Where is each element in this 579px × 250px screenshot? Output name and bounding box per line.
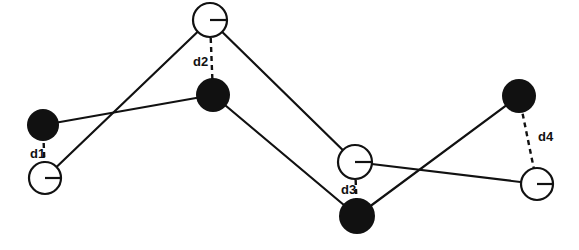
filled-nodes-group <box>27 78 536 234</box>
distance-label-d3: d3 <box>341 182 356 197</box>
edge-o2-o3 <box>210 20 355 162</box>
open-node-stubs-group <box>45 20 553 184</box>
solid-edges-group <box>43 20 537 216</box>
node-link-diagram: d1 d2 d3 d4 <box>0 0 579 250</box>
edge-o3-o4 <box>355 162 537 184</box>
edge-f2-f3 <box>213 95 357 216</box>
diagram-canvas: d1 d2 d3 d4 <box>0 0 579 250</box>
distance-label-d2: d2 <box>193 54 208 69</box>
distance-label-d4: d4 <box>538 129 554 144</box>
filled-node-f1 <box>27 109 59 141</box>
filled-node-f2 <box>196 78 230 112</box>
filled-node-f3 <box>339 198 375 234</box>
open-nodes-group <box>29 3 553 200</box>
distance-label-d1: d1 <box>30 146 45 161</box>
edge-f3-f4 <box>357 96 519 216</box>
filled-node-f4 <box>502 79 536 113</box>
distance-lines-group <box>43 20 537 216</box>
